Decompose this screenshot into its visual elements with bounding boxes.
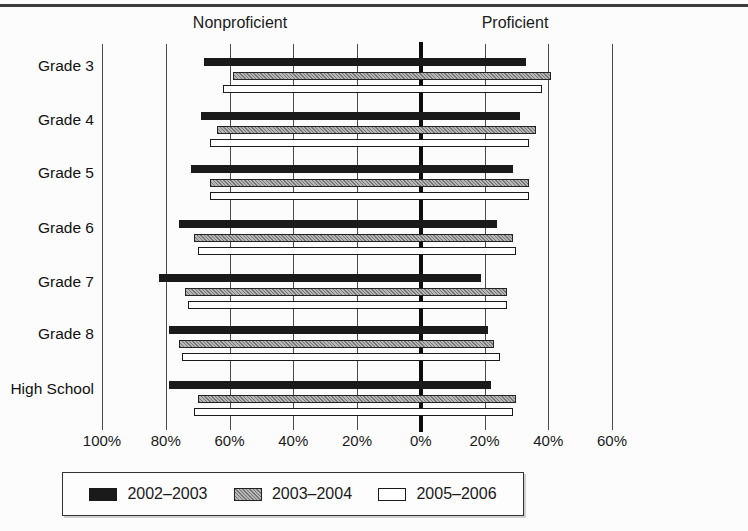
bar-grade-8-2003-2004	[179, 340, 495, 348]
bar-grade-8-2005-2006	[182, 353, 501, 361]
bar-grade-3-2005-2006	[223, 85, 542, 93]
bar-grade-4-2003-2004	[217, 126, 536, 134]
legend-entry-2002-2003: 2002–2003	[89, 485, 207, 503]
category-label-grade-4: Grade 4	[0, 111, 94, 129]
bar-grade-6-2005-2006	[198, 247, 517, 255]
top-rule	[0, 4, 748, 7]
legend-label-2003-2004: 2003–2004	[272, 485, 352, 503]
gridline	[102, 44, 103, 430]
bar-grade-5-2003-2004	[210, 179, 529, 187]
legend-entry-2005-2006: 2005–2006	[378, 485, 496, 503]
axis-tick-label: 40%	[278, 432, 308, 449]
bar-grade-7-2002-2003	[159, 274, 481, 282]
bar-grade-3-2003-2004	[233, 72, 552, 80]
axis-tick-label: 40%	[533, 432, 563, 449]
bar-grade-5-2005-2006	[210, 192, 529, 200]
legend-swatch-2003-2004	[234, 488, 262, 501]
bar-high-school-2002-2003	[169, 381, 491, 389]
legend-swatch-2005-2006	[378, 488, 406, 501]
category-label-grade-5: Grade 5	[0, 164, 94, 182]
gridline	[548, 44, 549, 430]
axis-tick-label: 80%	[151, 432, 181, 449]
axis-tick-label: 60%	[597, 432, 627, 449]
category-label-grade-8: Grade 8	[0, 325, 94, 343]
bar-grade-3-2002-2003	[204, 58, 526, 66]
nonproficient-header: Nonproficient	[140, 14, 340, 32]
bar-grade-4-2002-2003	[201, 112, 520, 120]
bar-grade-6-2002-2003	[179, 220, 498, 228]
legend-label-2002-2003: 2002–2003	[127, 485, 207, 503]
axis-tick-label: 100%	[83, 432, 121, 449]
gridline	[166, 44, 167, 430]
category-label-grade-6: Grade 6	[0, 219, 94, 237]
axis-tick-label: 60%	[214, 432, 244, 449]
axis-tick-label: 20%	[342, 432, 372, 449]
legend-entry-2003-2004: 2003–2004	[234, 485, 352, 503]
bar-grade-6-2003-2004	[194, 234, 513, 242]
category-label-grade-3: Grade 3	[0, 57, 94, 75]
bar-grade-7-2003-2004	[185, 288, 507, 296]
category-label-high-school: High School	[0, 380, 94, 398]
gridline	[612, 44, 613, 430]
legend-swatch-2002-2003	[89, 488, 117, 501]
bar-grade-4-2005-2006	[210, 139, 529, 147]
chart-page: Nonproficient Proficient 100%80%60%40%20…	[0, 0, 748, 531]
proficient-header: Proficient	[415, 14, 615, 32]
legend-label-2005-2006: 2005–2006	[416, 485, 496, 503]
category-label-grade-7: Grade 7	[0, 273, 94, 291]
axis-tick-label: 0%	[410, 432, 432, 449]
bar-high-school-2003-2004	[198, 395, 517, 403]
axis-tick-label: 20%	[469, 432, 499, 449]
bar-high-school-2005-2006	[194, 408, 513, 416]
bar-grade-8-2002-2003	[169, 326, 488, 334]
plot-area: 100%80%60%40%20%0%20%40%60%	[102, 42, 612, 420]
legend: 2002–2003 2003–2004 2005–2006	[62, 472, 524, 516]
bar-grade-7-2005-2006	[188, 301, 507, 309]
bar-grade-5-2002-2003	[191, 165, 513, 173]
